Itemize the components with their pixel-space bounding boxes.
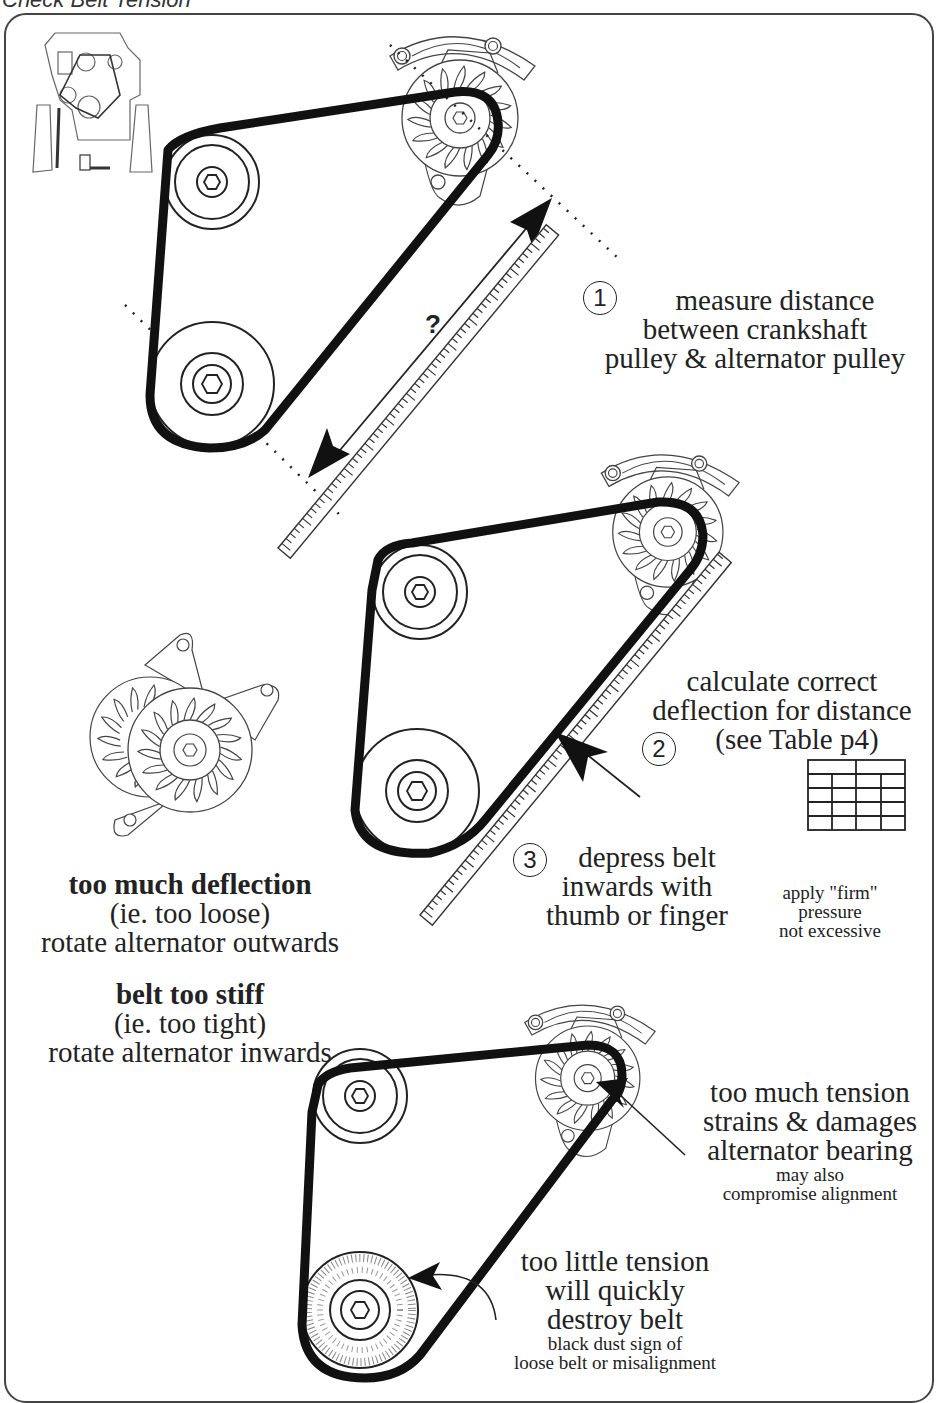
too-loose-action: rotate alternator outwards bbox=[10, 928, 370, 957]
too-much-tension-warning: too much tension strains & damages alter… bbox=[680, 1078, 940, 1203]
too-tight-guidance: belt too stiff (ie. too tight) rotate al… bbox=[10, 980, 370, 1067]
step-1-line-1: measure distance bbox=[585, 286, 925, 315]
too-much-line-2: strains & damages bbox=[680, 1107, 940, 1136]
ruler-icon bbox=[278, 225, 559, 558]
too-much-sub-1: may also bbox=[680, 1165, 940, 1184]
too-little-line-2: will quickly bbox=[470, 1276, 760, 1305]
pressure-note-line-3: not excessive bbox=[760, 921, 900, 940]
too-tight-detail: (ie. too tight) bbox=[10, 1009, 370, 1038]
step-2-line-2: deflection for distance bbox=[632, 696, 932, 725]
step-3-line-1: depress belt bbox=[532, 843, 742, 872]
step-3-text: depress belt inwards with thumb or finge… bbox=[532, 843, 742, 930]
too-much-line-3: alternator bearing bbox=[680, 1136, 940, 1165]
too-loose-guidance: too much deflection (ie. too loose) rota… bbox=[10, 870, 370, 957]
step-3-line-3: thumb or finger bbox=[532, 901, 742, 930]
unknown-distance-label: ? bbox=[425, 309, 441, 339]
too-much-sub-2: compromise alignment bbox=[680, 1184, 940, 1203]
too-much-line-1: too much tension bbox=[680, 1078, 940, 1107]
pressure-note-line-2: pressure bbox=[760, 902, 900, 921]
engine-thumbnail-icon bbox=[33, 33, 152, 172]
diagram-measure-distance: ? bbox=[125, 37, 620, 558]
crankshaft-pulley-icon bbox=[355, 729, 479, 853]
pressure-note-line-1: apply "firm" bbox=[760, 883, 900, 902]
too-loose-heading: too much deflection bbox=[10, 870, 370, 899]
step-3-line-2: inwards with bbox=[532, 872, 742, 901]
step-2-badge: 2 bbox=[642, 732, 676, 766]
alternator-rotation-icon bbox=[90, 633, 279, 836]
too-little-sub-2: loose belt or misalignment bbox=[470, 1353, 760, 1372]
step-2-text: calculate correct deflection for distanc… bbox=[632, 667, 932, 754]
step-2-line-3: (see Table p4) bbox=[632, 725, 932, 754]
idler-pulley-icon bbox=[373, 545, 467, 639]
dusty-crankshaft-pulley-icon bbox=[302, 1252, 418, 1368]
too-little-line-3: destroy belt bbox=[470, 1305, 760, 1334]
pressure-note: apply "firm" pressure not excessive bbox=[760, 883, 900, 940]
too-tight-action: rotate alternator inwards bbox=[10, 1038, 370, 1067]
step-1-line-3: pulley & alternator pulley bbox=[585, 344, 925, 373]
idler-pulley-icon bbox=[165, 135, 259, 229]
too-little-line-1: too little tension bbox=[470, 1247, 760, 1276]
too-loose-detail: (ie. too loose) bbox=[10, 899, 370, 928]
crankshaft-pulley-icon bbox=[150, 322, 274, 446]
table-icon bbox=[808, 760, 905, 830]
step-1-text: measure distance between crankshaft pull… bbox=[585, 286, 925, 373]
too-little-sub-1: black dust sign of bbox=[470, 1334, 760, 1353]
too-tight-heading: belt too stiff bbox=[10, 980, 370, 1009]
too-little-tension-warning: too little tension will quickly destroy … bbox=[470, 1247, 760, 1372]
step-1-line-2: between crankshaft bbox=[585, 315, 925, 344]
step-2-line-1: calculate correct bbox=[632, 667, 932, 696]
